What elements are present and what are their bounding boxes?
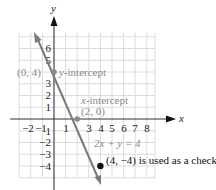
y-tick: 2 — [46, 89, 52, 101]
y-tick: −4 — [39, 160, 51, 172]
y-axis-arrow-icon — [51, 16, 58, 26]
line-arrow-up-icon — [34, 32, 42, 43]
x-tick: 3 — [86, 122, 92, 134]
equation-rest: + y = 4 — [104, 137, 141, 149]
x-tick: −2 — [22, 122, 34, 134]
x-tick: 7 — [132, 122, 138, 134]
y-axis — [51, 16, 58, 190]
x-tick: 1 — [63, 122, 69, 134]
x-tick-labels: −2 −1 1 3 4 5 6 7 8 — [22, 122, 150, 134]
x-axis-arrow-icon — [166, 116, 176, 123]
x-tick: 5 — [109, 122, 115, 134]
check-point-label: (4, −4) is used as a check. — [106, 154, 216, 167]
point-y-intercept — [51, 69, 57, 75]
equation-2x: 2x — [94, 137, 105, 149]
y-tick: 3 — [46, 77, 52, 89]
point-check — [97, 163, 103, 169]
y-tick: −2 — [39, 136, 51, 148]
point-x-intercept — [74, 116, 80, 122]
x-tick: 4 — [98, 122, 104, 134]
x-tick: 6 — [121, 122, 127, 134]
y-tick: 1 — [46, 101, 52, 113]
x-axis-label: x — [178, 112, 184, 124]
y-axis-label: y — [50, 2, 56, 14]
x-tick: 8 — [144, 122, 150, 134]
y-intercept-label: y-intercept — [58, 66, 106, 78]
equation-label: 2x + y = 4 — [94, 137, 141, 149]
x-intercept-coord: (2, 0) — [81, 105, 105, 118]
graph: x y −2 −1 1 3 4 5 6 7 8 6 5 3 2 1 1 −2 −… — [0, 0, 216, 190]
y-tick: −3 — [39, 148, 51, 160]
y-intercept-coord: (0, 4) — [17, 66, 41, 79]
line-arrow-down-icon — [95, 175, 102, 185]
y-tick: 6 — [46, 42, 52, 54]
y-intercept-suffix: -intercept — [64, 66, 106, 78]
